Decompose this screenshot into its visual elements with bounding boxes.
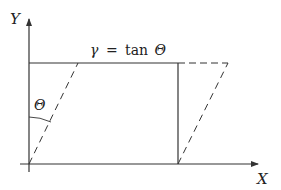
shear-diagram: Y X Θ γ = tan Θ: [0, 0, 281, 190]
sheared-right-edge: [178, 63, 228, 164]
y-axis-label: Y: [10, 10, 22, 28]
shear-strain-equation: γ = tan Θ: [90, 42, 167, 58]
gamma-symbol: γ: [90, 42, 99, 58]
sheared-left-edge: [29, 63, 78, 164]
angle-label: Θ: [34, 97, 46, 113]
theta-symbol: Θ: [155, 42, 167, 58]
equals-sign: =: [106, 42, 118, 58]
angle-arc: [29, 117, 51, 122]
tan-function: tan: [125, 42, 148, 58]
x-axis-label: X: [256, 170, 269, 188]
